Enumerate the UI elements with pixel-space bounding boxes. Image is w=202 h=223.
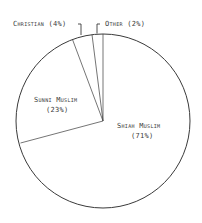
pie-chart [0,0,202,223]
other-leader [97,24,100,34]
label-sunni-name: Sunni Muslim [34,96,77,105]
label-sunni-pct: (23%) [46,106,69,115]
christian-leader [78,24,81,35]
label-shiah-name: Shiah Muslim [117,122,160,131]
label-shiah-pct: (71%) [131,132,154,141]
label-christian: Christian (4%) [13,20,67,29]
label-other: Other (2%) [105,20,145,29]
